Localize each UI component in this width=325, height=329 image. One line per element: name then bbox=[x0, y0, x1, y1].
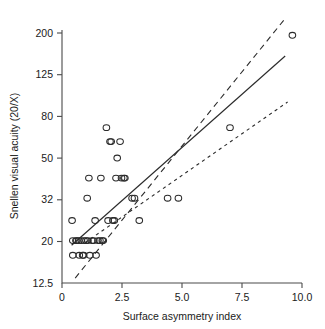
x-tick-label: 2.5 bbox=[115, 291, 130, 303]
data-point bbox=[114, 155, 121, 161]
y-axis-title: Snellen visual acuity (20/X) bbox=[8, 93, 20, 220]
data-point bbox=[164, 195, 171, 201]
x-tick-label: 7.5 bbox=[235, 291, 250, 303]
scatter-plot-canvas: 200 125 80 50 32 20 12.5 0 2.5 5.0 7.5 bbox=[0, 0, 325, 329]
data-point bbox=[92, 218, 99, 224]
data-point bbox=[98, 175, 105, 181]
x-tick-label: 5.0 bbox=[175, 291, 190, 303]
x-tick-label: 0 bbox=[59, 291, 65, 303]
data-point bbox=[175, 195, 182, 201]
y-tick-label: 125 bbox=[35, 68, 53, 80]
data-point bbox=[86, 175, 93, 181]
axis-spines bbox=[62, 30, 302, 283]
lower-confidence-band bbox=[85, 102, 288, 243]
data-point bbox=[289, 32, 296, 38]
y-tick-label: 32 bbox=[41, 193, 53, 205]
x-axis-title: Surface asymmetry index bbox=[123, 310, 242, 322]
data-point bbox=[87, 252, 94, 258]
y-axis-ticks: 200 125 80 50 32 20 12.5 bbox=[33, 27, 62, 289]
y-tick-label: 20 bbox=[41, 235, 53, 247]
y-tick-label: 80 bbox=[41, 110, 53, 122]
data-point bbox=[70, 252, 77, 258]
x-axis-ticks: 0 2.5 5.0 7.5 10.0 bbox=[59, 283, 312, 303]
data-point bbox=[69, 218, 76, 224]
data-point bbox=[227, 125, 234, 131]
data-point bbox=[103, 125, 110, 131]
y-tick-label: 50 bbox=[41, 152, 53, 164]
data-point bbox=[84, 195, 91, 201]
x-tick-label: 10.0 bbox=[292, 291, 313, 303]
data-point bbox=[117, 139, 124, 145]
y-tick-label: 200 bbox=[35, 27, 53, 39]
data-point bbox=[136, 218, 143, 224]
y-tick-label: 12.5 bbox=[33, 277, 54, 289]
chart-figure: 200 125 80 50 32 20 12.5 0 2.5 5.0 7.5 bbox=[0, 0, 325, 329]
regression-line bbox=[72, 56, 286, 245]
data-point bbox=[93, 252, 100, 258]
